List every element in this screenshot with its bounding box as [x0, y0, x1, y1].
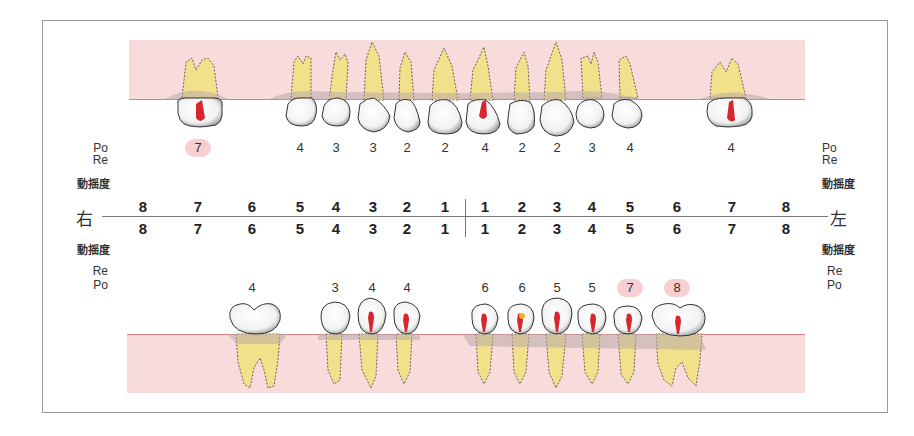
tooth-number-upper-R4: 4	[324, 198, 348, 215]
upper-pocket-R7: 7	[185, 139, 211, 157]
tooth-number-upper-L4: 4	[580, 198, 604, 215]
tooth-number-upper-L7: 7	[720, 198, 744, 215]
tooth-number-lower-R8: 8	[131, 220, 155, 237]
tooth-number-lower-R7: 7	[186, 220, 210, 237]
lower-po-label-right: Po	[827, 279, 842, 291]
teeth-illustration	[0, 0, 914, 436]
tooth-number-upper-R3: 3	[361, 198, 385, 215]
left-side-label: 左	[830, 205, 847, 230]
midline	[465, 199, 466, 237]
lower-pocket-R3: 4	[359, 279, 385, 297]
tooth-number-upper-R6: 6	[240, 198, 264, 215]
tooth-number-upper-L8: 8	[774, 198, 798, 215]
tooth-number-lower-L8: 8	[774, 220, 798, 237]
tooth-number-lower-L5: 5	[618, 220, 642, 237]
upper-pocket-L1: 4	[472, 139, 498, 157]
lower-pocket-L2: 6	[509, 279, 535, 297]
tooth-number-upper-L5: 5	[618, 198, 642, 215]
tooth-number-upper-L2: 2	[510, 198, 534, 215]
tooth-number-upper-R8: 8	[131, 198, 155, 215]
upper-pocket-L4: 3	[579, 139, 605, 157]
tooth-number-upper-L1: 1	[473, 198, 497, 215]
tooth-number-upper-R2: 2	[395, 198, 419, 215]
upper-pocket-L3: 2	[544, 139, 570, 157]
lower-pocket-L3: 5	[544, 279, 570, 297]
tooth-number-upper-R7: 7	[186, 198, 210, 215]
tooth-number-lower-R6: 6	[240, 220, 264, 237]
tooth-number-lower-L7: 7	[720, 220, 744, 237]
upper-pocket-R3: 3	[360, 139, 386, 157]
upper-pocket-L2: 2	[509, 139, 535, 157]
lower-mobility-label-left: 動揺度	[60, 245, 110, 257]
lower-mobility-label-right: 動揺度	[822, 245, 855, 257]
upper-pocket-R1: 2	[432, 139, 458, 157]
lower-po-label-left: Po	[80, 279, 108, 291]
upper-pocket-R4: 3	[323, 139, 349, 157]
tooth-number-lower-L4: 4	[580, 220, 604, 237]
upper-mobility-label-left: 動揺度	[60, 179, 110, 191]
lower-pocket-L6: 8	[664, 279, 690, 297]
tooth-number-upper-R1: 1	[433, 198, 457, 215]
tooth-number-lower-R1: 1	[433, 220, 457, 237]
tooth-number-lower-L2: 2	[510, 220, 534, 237]
upper-mobility-label-right: 動揺度	[822, 179, 855, 191]
tooth-number-lower-L6: 6	[665, 220, 689, 237]
tooth-number-lower-L1: 1	[473, 220, 497, 237]
right-side-label: 右	[76, 205, 93, 230]
tooth-number-lower-R5: 5	[288, 220, 312, 237]
tooth-number-upper-R5: 5	[288, 198, 312, 215]
upper-re-label-right: Re	[822, 154, 837, 166]
lower-pocket-R6: 4	[239, 279, 265, 297]
lower-pocket-L1: 6	[472, 279, 498, 297]
tooth-number-upper-L3: 3	[545, 198, 569, 215]
lower-re-label-left: Re	[80, 265, 108, 277]
lower-re-label-right: Re	[827, 265, 842, 277]
tooth-number-lower-R3: 3	[361, 220, 385, 237]
tooth-number-lower-L3: 3	[545, 220, 569, 237]
lower-pocket-R4: 3	[322, 279, 348, 297]
lower-pocket-L4: 5	[579, 279, 605, 297]
upper-re-label-left: Re	[80, 154, 108, 166]
tooth-number-upper-L6: 6	[665, 198, 689, 215]
upper-pocket-R5: 4	[287, 139, 313, 157]
upper-pocket-L5: 4	[617, 139, 643, 157]
lower-pocket-R2: 4	[394, 279, 420, 297]
tooth-number-lower-R4: 4	[324, 220, 348, 237]
lower-pocket-L5: 7	[617, 279, 643, 297]
upper-pocket-L7: 4	[718, 139, 744, 157]
upper-pocket-R2: 2	[394, 139, 420, 157]
tooth-number-lower-R2: 2	[395, 220, 419, 237]
